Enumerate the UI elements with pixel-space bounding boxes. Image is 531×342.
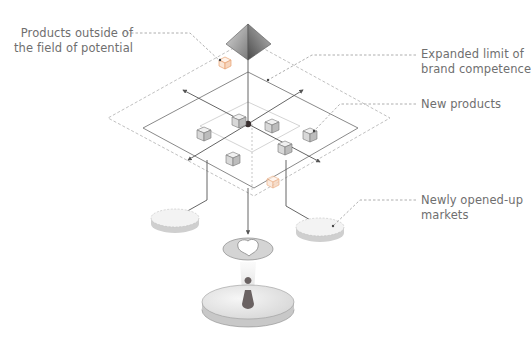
cube-icon	[226, 152, 240, 166]
cube-icon	[278, 141, 292, 155]
cube-icon	[197, 127, 211, 141]
market-disc-left	[151, 209, 199, 233]
field-of-potential-plane	[143, 72, 358, 188]
cube-icon	[265, 119, 279, 133]
label-new-markets-line1: Newly opened-up	[421, 193, 523, 208]
outside-product-cube-icon	[219, 57, 231, 69]
label-new-products: New products	[421, 97, 501, 112]
label-outside-products-line2: the field of potential	[14, 41, 133, 56]
label-outside-products-line1: Products outside of	[14, 26, 133, 41]
label-expanded-limit: Expanded limit of brand competence	[421, 47, 531, 77]
label-new-markets-line2: markets	[421, 208, 523, 223]
label-new-products-line1: New products	[421, 97, 501, 112]
label-outside-products: Products outside of the field of potenti…	[14, 26, 133, 56]
market-disc-right	[296, 218, 344, 242]
outside-product-cube-icon	[267, 176, 279, 188]
label-expanded-limit-line1: Expanded limit of	[421, 47, 531, 62]
cube-icon	[232, 114, 246, 128]
core-disc	[223, 238, 273, 260]
cube-icon	[303, 128, 317, 142]
label-new-markets: Newly opened-up markets	[421, 193, 523, 223]
pyramid-icon	[226, 24, 271, 60]
label-expanded-limit-line2: brand competence	[421, 62, 531, 77]
